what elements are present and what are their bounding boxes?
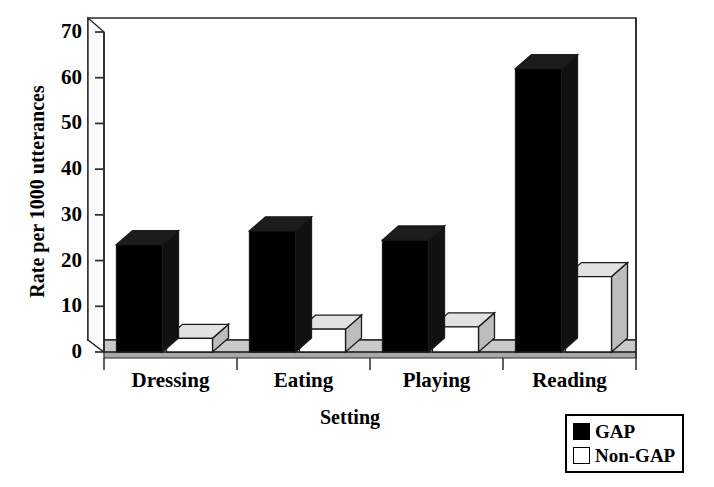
bar-side-face <box>429 226 445 352</box>
x-category-label-playing: Playing <box>403 368 471 393</box>
legend-swatch-icon <box>573 423 590 440</box>
y-tick-label: 70 <box>42 21 82 42</box>
y-tick-label: 10 <box>42 295 82 316</box>
x-axis-category-labels: DressingEatingPlayingReading <box>82 368 642 404</box>
bar-Playing-gap <box>383 226 445 352</box>
bar-Reading-gap <box>516 55 578 352</box>
y-tick-label: 40 <box>42 158 82 179</box>
floor-front-edge <box>104 352 636 358</box>
bar-side-face <box>296 217 312 352</box>
bar-chart: Rate per 1000 utterances 010203040506070 <box>0 0 714 487</box>
plot-frame <box>82 10 642 370</box>
y-tick-label: 60 <box>42 67 82 88</box>
x-category-label-reading: Reading <box>532 368 607 393</box>
bar-front-face <box>383 240 429 352</box>
x-category-label-dressing: Dressing <box>132 368 210 393</box>
legend-swatch-icon <box>573 447 590 464</box>
legend-label: Non-GAP <box>595 446 675 465</box>
legend-item-non-gap: Non-GAP <box>573 443 675 467</box>
y-tick-label: 0 <box>42 341 82 362</box>
plot-area <box>82 10 642 370</box>
x-category-label-eating: Eating <box>274 368 334 393</box>
y-tick-label: 30 <box>42 204 82 225</box>
y-tick-label: 20 <box>42 250 82 271</box>
left-wall <box>88 18 104 352</box>
bar-Dressing-gap <box>117 231 179 352</box>
legend-label: GAP <box>595 422 635 441</box>
chart-legend: GAPNon-GAP <box>565 414 684 473</box>
bar-side-face <box>562 55 578 352</box>
bar-side-face <box>612 263 628 352</box>
bar-front-face <box>117 245 163 352</box>
bar-Eating-gap <box>250 217 312 352</box>
bar-front-face <box>516 69 562 352</box>
bar-side-face <box>163 231 179 352</box>
legend-item-gap: GAP <box>573 419 675 443</box>
bar-front-face <box>250 231 296 352</box>
y-tick-label: 50 <box>42 112 82 133</box>
